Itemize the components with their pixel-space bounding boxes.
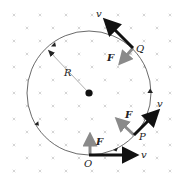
point-P: F v P — [118, 98, 163, 142]
force-label-P: F — [124, 109, 133, 120]
arrowhead-right — [147, 89, 153, 94]
velocity-label-O: v — [141, 149, 147, 160]
point-O: F v O — [84, 136, 147, 169]
magnetic-circular-motion-diagram: R F v O F v P F v Q — [0, 0, 176, 180]
force-arrow-P — [118, 120, 134, 135]
arrowhead-left — [34, 121, 40, 127]
radius-label: R — [63, 67, 72, 78]
velocity-label-P: v — [157, 98, 163, 109]
force-label-Q: F — [106, 52, 115, 63]
point-label-Q: Q — [136, 43, 144, 54]
velocity-label-Q: v — [96, 8, 102, 19]
point-Q: F v Q — [96, 8, 144, 63]
force-label-O: F — [95, 136, 104, 147]
point-label-O: O — [84, 158, 92, 169]
center-dot — [85, 89, 92, 96]
arrowhead-top-left — [51, 42, 56, 47]
point-label-P: P — [138, 131, 146, 142]
force-arrow-Q — [121, 48, 133, 62]
